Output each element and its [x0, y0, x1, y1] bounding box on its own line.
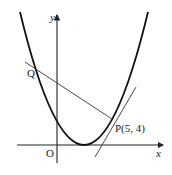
y-axis-label: y: [49, 11, 55, 23]
normal-line: [25, 62, 112, 119]
point-q-label: Q: [27, 67, 35, 79]
point-p-label: P(5, 4): [115, 122, 145, 135]
parabola-diagram: y x O Q P(5, 4): [0, 0, 172, 175]
x-axis-label: x: [155, 147, 161, 159]
origin-label: O: [46, 147, 54, 159]
